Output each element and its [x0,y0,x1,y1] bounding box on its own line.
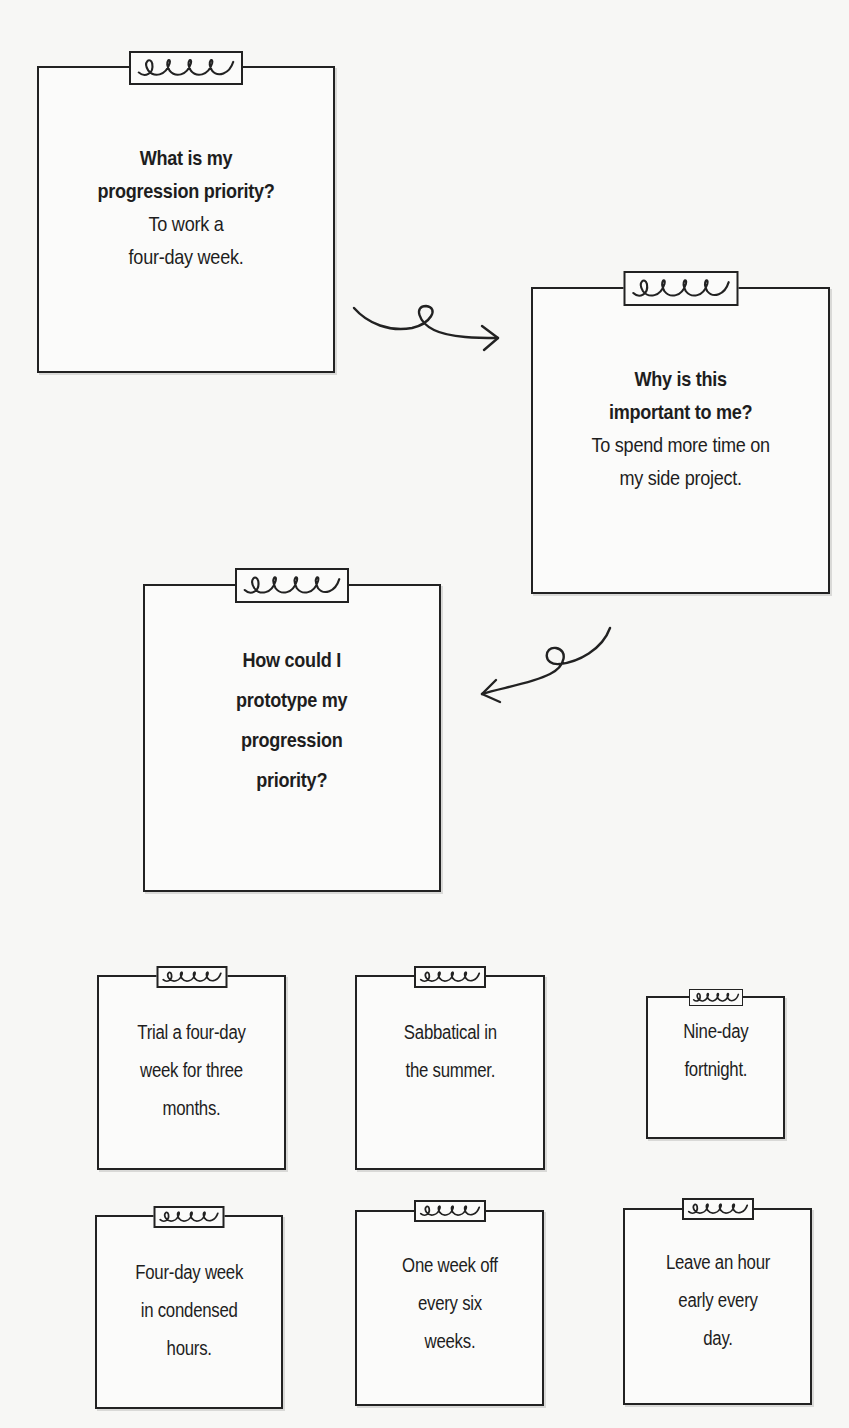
note-text: How could I prototype my progression pri… [236,640,347,800]
question-line: progression [236,720,347,760]
option-line: week for three [137,1051,245,1089]
curly-arrow-right-icon [350,300,505,360]
spring-clip-icon [414,966,486,988]
answer-line: my side project. [591,461,769,494]
option-line: weeks. [402,1322,498,1360]
option-line: Leave an hour [665,1243,769,1281]
note-progression-priority: What is my progression priority? To work… [37,66,335,373]
note-text: Four-day week in condensed hours. [135,1253,243,1367]
curly-arrow-left-icon [470,622,615,707]
option-line: hours. [135,1329,243,1367]
question-line: How could I [236,640,347,680]
option-line: One week off [402,1246,498,1284]
option-note-condensed-hours: Four-day week in condensed hours. [95,1215,283,1409]
spring-clip-icon [154,1206,225,1228]
option-note-leave-early: Leave an hour early every day. [623,1208,812,1405]
option-line: day. [665,1319,769,1357]
answer-line: To spend more time on [591,428,769,461]
note-text: Trial a four-day week for three months. [137,1013,245,1127]
option-note-nine-day-fortnight: Nine-day fortnight. [646,996,785,1139]
note-text: Nine-day fortnight. [683,1012,748,1088]
spring-clip-icon [156,966,227,988]
note-text: Leave an hour early every day. [665,1243,769,1357]
question-line: important to me? [591,395,769,428]
option-line: months. [137,1089,245,1127]
option-line: in condensed [135,1291,243,1329]
option-note-sabbatical: Sabbatical in the summer. [355,975,545,1170]
spring-clip-icon [414,1200,486,1222]
option-line: Trial a four-day [137,1013,245,1051]
answer-line: four-day week. [97,240,274,273]
answer-line: To work a [97,207,274,240]
option-line: every six [402,1284,498,1322]
spring-clip-icon [235,568,349,603]
note-text: Sabbatical in the summer. [404,1013,497,1089]
option-line: fortnight. [683,1050,748,1088]
note-text: Why is this important to me? To spend mo… [591,362,769,494]
option-line: early every [665,1281,769,1319]
option-line: Sabbatical in [404,1013,497,1051]
question-line: What is my [97,141,274,174]
spring-clip-icon [689,989,743,1006]
question-line: prototype my [236,680,347,720]
option-note-week-off: One week off every six weeks. [355,1210,544,1406]
option-line: the summer. [404,1051,497,1089]
note-text: What is my progression priority? To work… [97,141,274,273]
note-why-important: Why is this important to me? To spend mo… [531,287,830,594]
question-line: progression priority? [97,174,274,207]
question-line: Why is this [591,362,769,395]
option-line: Nine-day [683,1012,748,1050]
option-line: Four-day week [135,1253,243,1291]
question-line: priority? [236,760,347,800]
note-text: One week off every six weeks. [402,1246,498,1360]
option-note-trial-four-day: Trial a four-day week for three months. [97,975,286,1170]
spring-clip-icon [623,271,738,306]
spring-clip-icon [129,51,243,85]
note-how-prototype: How could I prototype my progression pri… [143,584,441,892]
cropped-heading-fragment [90,0,690,2]
spring-clip-icon [682,1198,754,1220]
